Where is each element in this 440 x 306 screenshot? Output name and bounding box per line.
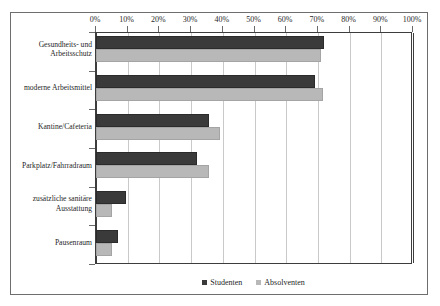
gridline-100pct xyxy=(413,33,414,263)
bar-absolventen xyxy=(96,243,112,256)
bar-studenten xyxy=(96,75,315,88)
x-axis-tick-label: 30% xyxy=(183,14,198,25)
x-axis-tick xyxy=(412,26,413,32)
legend-swatch-icon xyxy=(256,280,261,285)
x-axis-tick-label: 80% xyxy=(341,14,356,25)
bar-studenten xyxy=(96,36,324,49)
y-axis-tick xyxy=(89,264,95,265)
category-label: zusätzliche sanitäreAusstattung xyxy=(8,194,92,213)
legend-swatch-icon xyxy=(202,280,207,285)
category-label-line: Gesundheits- und xyxy=(8,40,92,50)
category-label: Kantine/Cafeteria xyxy=(8,122,92,132)
x-axis-tick-label: 70% xyxy=(310,14,325,25)
category-label-line: Parkplatz/Fahrradraum xyxy=(8,161,92,171)
bar-absolventen xyxy=(96,49,321,62)
category-label-line: Kantine/Cafeteria xyxy=(8,122,92,132)
x-axis-tick-label: 0% xyxy=(90,14,101,25)
category-label-line: zusätzliche sanitäre xyxy=(8,194,92,204)
legend-label: Studenten xyxy=(210,277,242,288)
chart-legend: StudentenAbsolventen xyxy=(95,274,412,290)
plot-area xyxy=(95,32,412,264)
category-label: Gesundheits- undArbeitsschutz xyxy=(8,40,92,59)
category-label-line: moderne Arbeitsmittel xyxy=(8,83,92,93)
bars-layer xyxy=(96,33,411,263)
x-axis-tick-label: 40% xyxy=(214,14,229,25)
bar-studenten xyxy=(96,191,126,204)
bar-studenten xyxy=(96,114,209,127)
legend-item-absolventen[interactable]: Absolventen xyxy=(256,277,304,288)
x-axis-tick-label: 10% xyxy=(119,14,134,25)
category-label: Pausenraum xyxy=(8,238,92,248)
bar-absolventen xyxy=(96,88,323,101)
x-axis-tick-label: 60% xyxy=(278,14,293,25)
bar-studenten xyxy=(96,152,197,165)
x-axis-tick-label: 90% xyxy=(373,14,388,25)
category-label-line: Arbeitsschutz xyxy=(8,49,92,59)
bar-chart: 0%10%20%30%40%50%60%70%80%90%100% Gesund… xyxy=(0,0,440,306)
bar-absolventen xyxy=(96,165,209,178)
x-axis-tick-label: 50% xyxy=(246,14,261,25)
bar-absolventen xyxy=(96,204,112,217)
y-axis-category-labels: Gesundheits- undArbeitsschutzmoderne Arb… xyxy=(8,32,92,264)
category-label: moderne Arbeitsmittel xyxy=(8,83,92,93)
legend-item-studenten[interactable]: Studenten xyxy=(202,277,242,288)
bar-absolventen xyxy=(96,127,220,140)
bar-studenten xyxy=(96,230,118,243)
x-axis-tick-label: 100% xyxy=(403,14,422,25)
category-label-line: Pausenraum xyxy=(8,238,92,248)
category-label-line: Ausstattung xyxy=(8,204,92,214)
legend-label: Absolventen xyxy=(264,277,304,288)
x-axis-tick-label: 20% xyxy=(151,14,166,25)
category-label: Parkplatz/Fahrradraum xyxy=(8,161,92,171)
x-axis-tick-labels: 0%10%20%30%40%50%60%70%80%90%100% xyxy=(95,14,412,26)
